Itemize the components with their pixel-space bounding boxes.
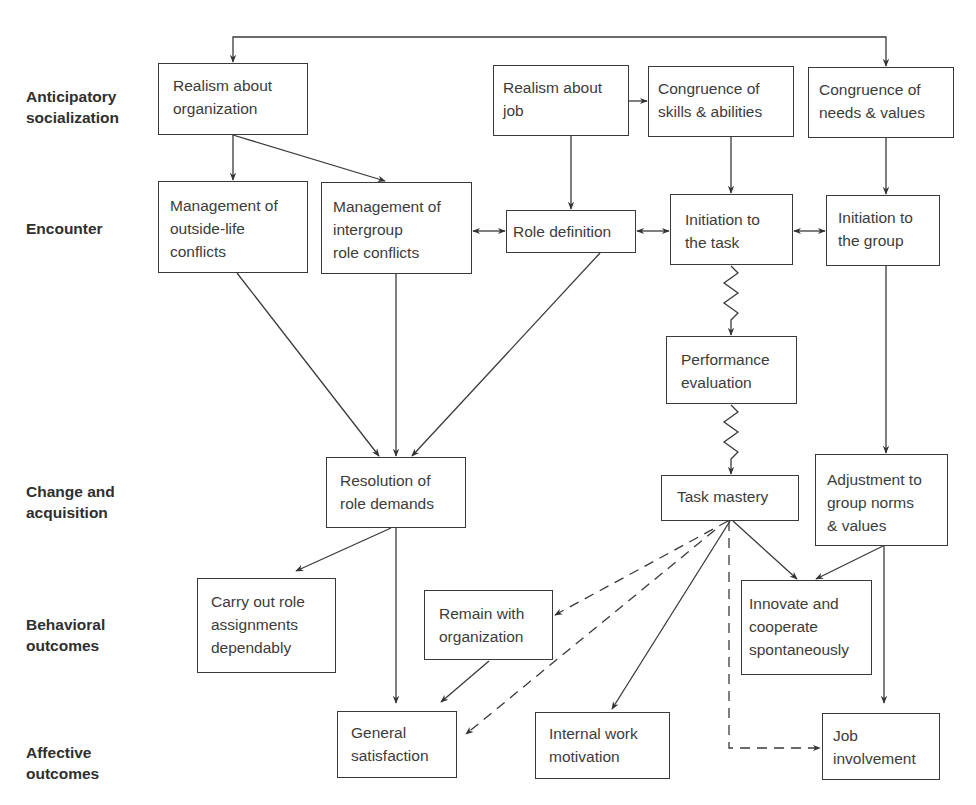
edge-remain-to-general-sat xyxy=(441,661,489,702)
edge-mgmt-outside-to-resolution xyxy=(237,273,379,456)
node-adjustment-group-norms-values: Adjustment to group norms & values xyxy=(815,454,948,546)
edge-task-mastery-to-innovate xyxy=(733,521,797,579)
node-initiation-to-group: Initiation to the group xyxy=(826,195,940,266)
node-internal-work-motivation: Internal work motivation xyxy=(535,712,670,779)
node-realism-about-organization: Realism about organization xyxy=(158,63,308,135)
node-initiation-to-task: Initiation to the task xyxy=(670,194,793,265)
node-realism-about-job: Realism about job xyxy=(493,65,629,136)
node-resolution-role-demands: Resolution of role demands xyxy=(326,457,466,528)
edge-perf-eval-to-task-mastery xyxy=(724,405,738,474)
edge-resolution-to-carry-out xyxy=(296,528,391,571)
edge-feedback-loop xyxy=(233,37,886,66)
edge-role-def-to-resolution xyxy=(412,253,600,456)
node-carry-out-role-assignments: Carry out role assignments dependably xyxy=(197,578,336,673)
node-management-outside-life-conflicts: Management of outside-life conflicts xyxy=(158,181,308,273)
node-remain-with-organization: Remain with organization xyxy=(424,590,553,660)
node-congruence-skills-abilities: Congruence of skills & abilities xyxy=(648,66,794,137)
node-general-satisfaction: General satisfaction xyxy=(337,711,457,778)
edge-realism-org-to-mgmt-intergroup xyxy=(233,135,385,181)
node-performance-evaluation: Performance evaluation xyxy=(666,336,797,404)
node-congruence-needs-values: Congruence of needs & values xyxy=(808,67,954,138)
node-role-definition: Role definition xyxy=(506,210,636,253)
node-innovate-cooperate: Innovate and cooperate spontaneously xyxy=(741,580,872,675)
edge-adjustment-to-innovate xyxy=(816,546,883,579)
edge-task-mastery-to-motivation xyxy=(612,521,730,709)
node-job-involvement: Job involvement xyxy=(822,713,940,780)
node-management-intergroup-role-conflicts: Management of intergroup role conflicts xyxy=(321,182,472,274)
edge-init-task-to-perf-eval xyxy=(724,266,738,335)
node-task-mastery: Task mastery xyxy=(661,475,799,521)
edge-task-mastery-to-remain xyxy=(555,521,728,615)
